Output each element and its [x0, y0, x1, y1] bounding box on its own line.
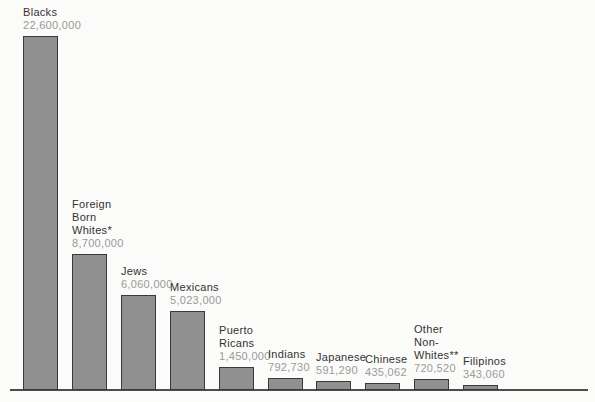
category-label-blacks: Blacks	[23, 6, 81, 19]
category-label-chinese: Chinese	[365, 353, 407, 366]
value-label-mexicans: 5,023,000	[170, 294, 222, 307]
bar-blacks	[23, 36, 58, 390]
category-label-puerto-ricans: Puerto Ricans	[219, 324, 271, 350]
bar-label-jews: Jews6,060,000	[121, 265, 173, 291]
value-label-other-non-whites: 720,520	[414, 362, 459, 375]
bar-filipinos	[463, 385, 498, 390]
bar-label-mexicans: Mexicans5,023,000	[170, 281, 222, 307]
bar-label-other-non-whites: Other Non- Whites**720,520	[414, 323, 459, 375]
value-label-blacks: 22,600,000	[23, 19, 81, 32]
bar-other-non-whites	[414, 379, 449, 390]
bar-label-japanese: Japanese591,290	[316, 351, 366, 377]
bar-jews	[121, 295, 156, 390]
value-label-japanese: 591,290	[316, 364, 366, 377]
bar-label-filipinos: Filipinos343,060	[463, 355, 506, 381]
value-label-indians: 792,730	[268, 361, 310, 374]
bar-label-foreign-born-whites: Foreign Born Whites*8,700,000	[72, 198, 124, 250]
bar-label-chinese: Chinese435,062	[365, 353, 407, 379]
bar-foreign-born-whites	[72, 254, 107, 390]
value-label-filipinos: 343,060	[463, 368, 506, 381]
bar-chart: Blacks22,600,000Foreign Born Whites*8,70…	[0, 0, 595, 402]
category-label-indians: Indians	[268, 348, 310, 361]
category-label-mexicans: Mexicans	[170, 281, 222, 294]
bar-label-indians: Indians792,730	[268, 348, 310, 374]
bar-label-blacks: Blacks22,600,000	[23, 6, 81, 32]
category-label-other-non-whites: Other Non- Whites**	[414, 323, 459, 362]
bar-indians	[268, 378, 303, 390]
category-label-foreign-born-whites: Foreign Born Whites*	[72, 198, 124, 237]
bar-chinese	[365, 383, 400, 390]
value-label-foreign-born-whites: 8,700,000	[72, 237, 124, 250]
value-label-puerto-ricans: 1,450,000	[219, 350, 271, 363]
bar-mexicans	[170, 311, 205, 390]
category-label-filipinos: Filipinos	[463, 355, 506, 368]
value-label-jews: 6,060,000	[121, 278, 173, 291]
category-label-jews: Jews	[121, 265, 173, 278]
category-label-japanese: Japanese	[316, 351, 366, 364]
bar-label-puerto-ricans: Puerto Ricans1,450,000	[219, 324, 271, 363]
value-label-chinese: 435,062	[365, 366, 407, 379]
bar-puerto-ricans	[219, 367, 254, 390]
bar-japanese	[316, 381, 351, 390]
